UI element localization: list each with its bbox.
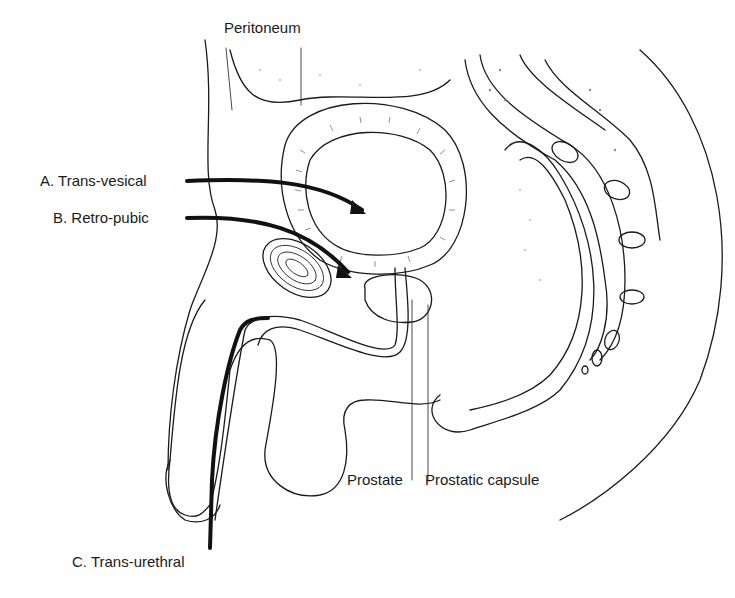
rectum-inner (470, 157, 582, 410)
anatomy-diagram: Peritoneum A. Trans-vesical B. Retro-pub… (0, 0, 735, 598)
label-peritoneum: Peritoneum (224, 19, 301, 37)
peritoneum-pointer-left (226, 48, 232, 110)
sacrum-coccyx (465, 55, 660, 374)
arrow-trans-vesical-head (350, 200, 366, 214)
peritoneum-fold (230, 50, 450, 103)
label-prostatic-capsule: Prostatic capsule (425, 471, 539, 489)
label-trans-urethral: C. Trans-urethral (72, 553, 185, 571)
rectum-outer (432, 142, 594, 432)
label-prostate: Prostate (347, 471, 403, 489)
prostate-outline (365, 275, 432, 323)
arrow-trans-urethral (210, 318, 268, 548)
urethra-inner (258, 268, 408, 357)
label-retro-pubic: B. Retro-pubic (53, 209, 149, 227)
label-trans-vesical: A. Trans-vesical (40, 172, 147, 190)
anatomy-drawing (0, 0, 735, 598)
pubic-bone (252, 227, 342, 310)
buttock-outline (560, 50, 722, 520)
